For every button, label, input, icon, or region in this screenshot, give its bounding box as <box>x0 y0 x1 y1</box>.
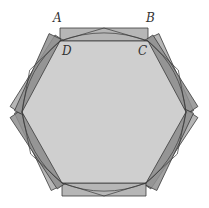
label-C: C <box>138 44 147 58</box>
strip-rect <box>60 28 148 41</box>
label-B: B <box>145 11 155 25</box>
label-A: A <box>52 11 62 25</box>
hexagon-fold-diagram: A B D C <box>0 0 209 208</box>
label-D: D <box>61 44 72 58</box>
strip-rect <box>62 183 146 196</box>
